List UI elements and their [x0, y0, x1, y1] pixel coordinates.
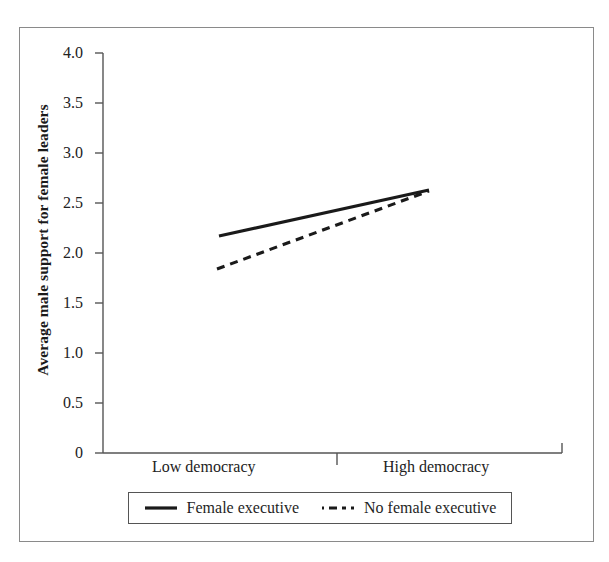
x-tick-label-high-democracy: High democracy [383, 458, 489, 476]
y-tick-label-2-5: 2.5 [37, 195, 83, 211]
y-tick-label-0-5: 0.5 [37, 395, 83, 411]
chart-svg [0, 0, 609, 562]
y-tick-label-3-5: 3.5 [37, 95, 83, 111]
legend-swatch-solid-icon [144, 501, 178, 515]
y-tick-label-4-0: 4.0 [37, 45, 83, 61]
legend-entry-female-executive: Female executive [144, 499, 299, 517]
y-tick-label-0: 0 [37, 445, 83, 461]
legend-label-no-female-executive: No female executive [364, 499, 496, 517]
y-axis-ticks [95, 53, 103, 453]
chart-legend: Female executive No female executive [128, 492, 512, 524]
legend-entry-no-female-executive: No female executive [321, 499, 496, 517]
legend-swatch-dash-dot-icon [321, 501, 355, 515]
legend-label-female-executive: Female executive [187, 499, 299, 517]
y-tick-label-2-0: 2.0 [37, 245, 83, 261]
x-tick-label-low-democracy: Low democracy [152, 458, 256, 476]
y-tick-label-3-0: 3.0 [37, 145, 83, 161]
y-tick-label-1-0: 1.0 [37, 345, 83, 361]
chart-plot-area: Average male support for female leaders … [0, 0, 609, 562]
y-tick-label-1-5: 1.5 [37, 295, 83, 311]
